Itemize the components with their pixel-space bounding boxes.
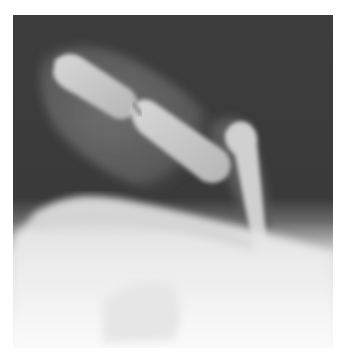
xray-image bbox=[13, 15, 333, 348]
finger-radiograph bbox=[13, 15, 333, 348]
